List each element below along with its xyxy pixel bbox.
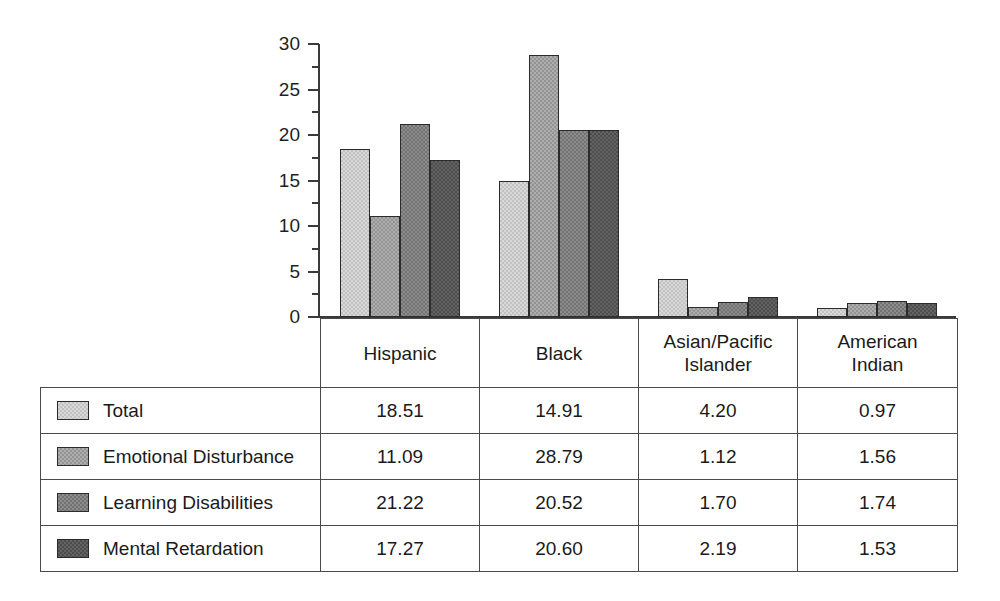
column-header-line: Indian [798, 353, 957, 376]
bar-group [658, 44, 778, 317]
y-axis-minor-tick [312, 66, 319, 68]
y-axis-tick-label: 30 [260, 34, 300, 53]
legend-row-label-cell: Total [41, 388, 321, 434]
table-column-header: Black [480, 319, 639, 388]
table-row: Learning Disabilities21.2220.521.701.74 [41, 480, 958, 526]
bar-group [499, 44, 619, 317]
table-value-cell: 1.12 [639, 434, 798, 480]
table-column-header: Hispanic [321, 319, 480, 388]
table-column-header: AmericanIndian [798, 319, 958, 388]
table-value-cell: 0.97 [798, 388, 958, 434]
table-value-cell: 20.60 [480, 526, 639, 572]
legend-swatch-icon [57, 493, 89, 512]
bar [529, 55, 559, 317]
y-axis-tick-label: 5 [260, 262, 300, 281]
y-axis-tick-label: 20 [260, 125, 300, 144]
bar [400, 124, 430, 317]
bar [688, 307, 718, 317]
table-value-cell: 1.53 [798, 526, 958, 572]
table-value-cell: 2.19 [639, 526, 798, 572]
table-value-cell: 18.51 [321, 388, 480, 434]
table-row: Mental Retardation17.2720.602.191.53 [41, 526, 958, 572]
y-axis-tick [308, 134, 319, 136]
legend-row-label-cell: Learning Disabilities [41, 480, 321, 526]
table-value-cell: 21.22 [321, 480, 480, 526]
bar [907, 303, 937, 317]
y-axis-tick-labels: 051015202530 [252, 0, 300, 340]
bar [877, 301, 907, 317]
y-axis-tick [308, 43, 319, 45]
y-axis-minor-tick [312, 202, 319, 204]
column-header-line: American [798, 330, 957, 353]
table-row: Total18.5114.914.200.97 [41, 388, 958, 434]
legend-row-label-cell: Emotional Disturbance [41, 434, 321, 480]
legend-row-label-cell: Mental Retardation [41, 526, 321, 572]
bar [340, 149, 370, 317]
bar [589, 130, 619, 317]
bar [847, 303, 877, 317]
y-axis-tick [308, 225, 319, 227]
y-axis-tick-label: 25 [260, 80, 300, 99]
legend-swatch-icon [57, 401, 89, 420]
y-axis-minor-tick [312, 293, 319, 295]
bar-group [817, 44, 937, 317]
table-column-header: Asian/PacificIslander [639, 319, 798, 388]
bar [748, 297, 778, 317]
y-axis-tick [308, 271, 319, 273]
bar [499, 181, 529, 317]
table-value-cell: 17.27 [321, 526, 480, 572]
legend-swatch-icon [57, 539, 89, 558]
bar [559, 130, 589, 317]
bar-group [340, 44, 460, 317]
bar [658, 279, 688, 317]
column-header-line: Islander [639, 353, 797, 376]
table-value-cell: 4.20 [639, 388, 798, 434]
legend-swatch-icon [57, 447, 89, 466]
legend-label: Learning Disabilities [103, 492, 273, 513]
column-header-line: Asian/Pacific [639, 330, 797, 353]
table-value-cell: 20.52 [480, 480, 639, 526]
y-axis-tick [308, 180, 319, 182]
table-header-blank-cell [41, 319, 321, 388]
legend-label: Emotional Disturbance [103, 446, 294, 467]
data-table: HispanicBlackAsian/PacificIslanderAmeric… [40, 318, 958, 572]
legend-label: Mental Retardation [103, 538, 264, 559]
bar [817, 308, 847, 317]
y-axis-minor-tick [312, 111, 319, 113]
y-axis-tick-label: 10 [260, 216, 300, 235]
table-value-cell: 11.09 [321, 434, 480, 480]
bar [718, 302, 748, 317]
bar [430, 160, 460, 317]
table-value-cell: 1.70 [639, 480, 798, 526]
bar-groups [320, 44, 956, 317]
legend-label: Total [103, 400, 143, 421]
table-row: Emotional Disturbance11.0928.791.121.56 [41, 434, 958, 480]
y-axis-minor-tick [312, 157, 319, 159]
column-header-line: Hispanic [321, 342, 479, 365]
table-header-row: HispanicBlackAsian/PacificIslanderAmeric… [41, 319, 958, 388]
column-header-line: Black [480, 342, 638, 365]
y-axis-tick [308, 89, 319, 91]
y-axis-minor-tick [312, 248, 319, 250]
y-axis-tick-label: 15 [260, 171, 300, 190]
table-value-cell: 1.74 [798, 480, 958, 526]
table-value-cell: 1.56 [798, 434, 958, 480]
bar [370, 216, 400, 317]
table-value-cell: 14.91 [480, 388, 639, 434]
table-value-cell: 28.79 [480, 434, 639, 480]
